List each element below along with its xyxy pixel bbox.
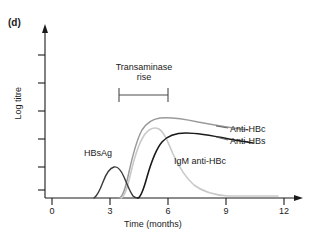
curve-label-anti-hbs: Anti-HBs <box>230 136 266 146</box>
transaminase-bracket <box>119 88 168 102</box>
figure-panel: (d) Log titre Time (months) 0 3 6 9 12 T… <box>0 0 312 243</box>
x-tick-label-9: 9 <box>216 206 236 216</box>
y-axis <box>38 24 48 198</box>
x-tick-label-12: 12 <box>274 206 294 216</box>
y-axis-title: Log titre <box>13 73 23 133</box>
x-tick-label-0: 0 <box>42 206 62 216</box>
x-axis-title: Time (months) <box>124 219 182 229</box>
transaminase-line-2: rise <box>137 72 152 82</box>
x-tick-label-6: 6 <box>158 206 178 216</box>
transaminase-line-1: Transaminase <box>116 62 173 72</box>
y-axis-ticks <box>38 55 45 190</box>
x-tick-label-3: 3 <box>100 206 120 216</box>
curve-label-hbsag: HBsAg <box>84 148 112 158</box>
transaminase-annotation: Transaminase rise <box>108 62 180 83</box>
x-axis-ticks <box>52 198 284 205</box>
panel-label: (d) <box>8 17 21 29</box>
curve-label-anti-hbc: Anti-HBc <box>230 124 266 134</box>
curve-label-igm-anti-hbc: IgM anti-HBc <box>174 156 226 166</box>
